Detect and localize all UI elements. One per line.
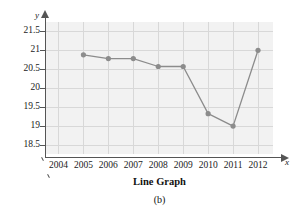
data-point-marker bbox=[81, 52, 86, 57]
data-point-marker bbox=[181, 64, 186, 69]
series-line bbox=[83, 50, 258, 126]
data-point-marker bbox=[206, 111, 211, 116]
data-point-marker bbox=[230, 123, 235, 128]
line-graph-figure: y x 21.52120.52019.51918.5 2004200520062… bbox=[0, 0, 299, 215]
data-point-marker bbox=[131, 56, 136, 61]
data-point-marker bbox=[255, 48, 260, 53]
data-point-marker bbox=[106, 56, 111, 61]
chart-title: Line Graph bbox=[46, 176, 273, 187]
data-point-marker bbox=[156, 64, 161, 69]
figure-label: (b) bbox=[46, 194, 273, 205]
